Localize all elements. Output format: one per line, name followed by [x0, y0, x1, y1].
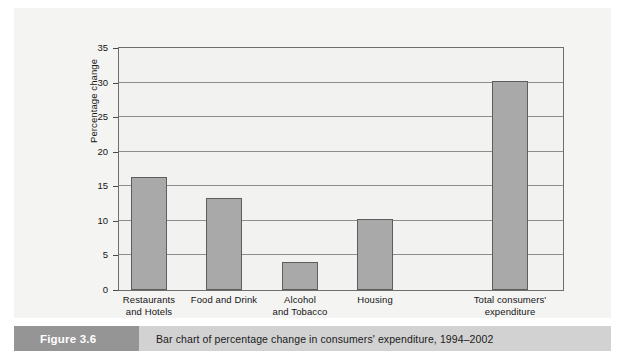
bar-slot [206, 48, 242, 290]
x-axis-category-label-line: and Tobacco [245, 306, 355, 318]
y-axis-tick-label: 20 [97, 146, 108, 157]
bar-slot [492, 48, 528, 290]
bar[interactable] [206, 198, 242, 290]
y-axis-tick-label: 25 [97, 111, 108, 122]
bar[interactable] [492, 81, 528, 290]
y-axis-tick-label: 5 [103, 249, 108, 260]
y-axis-tick-label: 30 [97, 77, 108, 88]
bar-slot [357, 48, 393, 290]
bar-slot [131, 48, 167, 290]
figure-page: Percentage change 05101520253035 Restaur… [0, 0, 625, 363]
bar[interactable] [282, 262, 318, 290]
figure-caption-text: Bar chart of percentage change in consum… [156, 326, 493, 351]
bar-slot [282, 48, 318, 290]
y-axis-tick-labels: 05101520253035 [14, 8, 118, 318]
x-axis-category-label-line: Total consumers' [455, 294, 565, 306]
bar[interactable] [131, 177, 167, 290]
figure-caption-bar: Figure 3.6 Bar chart of percentage chang… [14, 326, 611, 351]
figure-panel: Percentage change 05101520253035 Restaur… [14, 8, 611, 318]
bars-layer [119, 48, 563, 290]
x-axis-category-label-line: Housing [320, 294, 430, 306]
y-axis-tick-label: 15 [97, 180, 108, 191]
y-axis-tick-label: 35 [97, 42, 108, 53]
x-axis-category-label-line: expenditure [455, 306, 565, 318]
y-axis-tick-label: 10 [97, 215, 108, 226]
x-axis-category-label-line: and Hotels [94, 306, 204, 318]
x-axis-category-label: Total consumers'expenditure [455, 294, 565, 317]
bar[interactable] [357, 219, 393, 290]
x-axis-category-label: Housing [320, 294, 430, 306]
figure-number-tag: Figure 3.6 [14, 326, 139, 351]
x-axis-category-labels: Restaurantsand HotelsFood and DrinkAlcoh… [119, 294, 565, 328]
